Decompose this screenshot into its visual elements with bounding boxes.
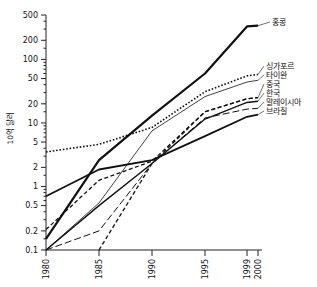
series-labels-group: 홍콩싱가포르타이완중국한국말레이시아브라질 xyxy=(266,17,302,116)
leader-line-중국 xyxy=(258,84,264,98)
series-label-한국: 한국 xyxy=(266,89,280,98)
leader-line-브라질 xyxy=(258,111,264,115)
y-tick-label: 20 xyxy=(28,100,38,109)
y-tick-label: 0.2 xyxy=(25,227,38,236)
series-label-타이완: 타이완 xyxy=(266,70,288,80)
series-line-홍콩 xyxy=(46,26,258,239)
leader-line-말레이시아 xyxy=(258,102,264,108)
y-tick-label: 50 xyxy=(28,74,38,83)
y-tick-label: 1 xyxy=(33,182,38,191)
x-tick-label: 1985 xyxy=(95,259,104,279)
y-tick-label: 10 xyxy=(28,119,38,128)
x-tick-label: 1980 xyxy=(42,259,51,279)
series-lines xyxy=(46,26,258,250)
leader-line-홍콩 xyxy=(258,22,270,26)
leader-line-싱가포르 xyxy=(258,66,264,74)
y-tick-label: 500 xyxy=(23,11,38,20)
x-tick-label: 1995 xyxy=(201,259,210,279)
y-axis-ticks: 5002001005020105210.50.20.1 xyxy=(23,11,46,255)
series-label-말레이시아: 말레이시아 xyxy=(266,97,302,107)
series-label-중국: 중국 xyxy=(266,80,280,89)
series-line-unlabeled-steep xyxy=(99,98,258,250)
x-tick-label: 2000 xyxy=(254,259,263,279)
y-tick-label: 5 xyxy=(33,138,38,147)
series-line-말레이시아 xyxy=(46,108,258,250)
y-tick-label: 0.1 xyxy=(25,246,38,255)
series-line-한국 xyxy=(46,101,258,250)
x-tick-label: 1999 xyxy=(243,259,252,279)
series-label-브라질: 브라질 xyxy=(266,107,287,116)
y-tick-label: 2 xyxy=(33,163,38,172)
chart-container: 10억 달러 5002001005020105210.50.20.1 19801… xyxy=(0,0,317,287)
leader-line-한국 xyxy=(258,93,264,101)
x-axis-ticks: 198019851990199519992000 xyxy=(42,250,263,279)
y-tick-label: 200 xyxy=(23,36,38,45)
line-chart: 10억 달러 5002001005020105210.50.20.1 19801… xyxy=(0,0,317,287)
series-label-싱가포르: 싱가포르 xyxy=(266,61,294,71)
series-label-홍콩: 홍콩 xyxy=(272,17,286,27)
x-tick-label: 1990 xyxy=(148,259,157,279)
y-tick-label: 100 xyxy=(23,55,38,64)
leader-line-타이완 xyxy=(258,75,264,80)
y-tick-label: 0.5 xyxy=(25,201,38,210)
y-axis-title: 10억 달러 xyxy=(6,112,15,145)
